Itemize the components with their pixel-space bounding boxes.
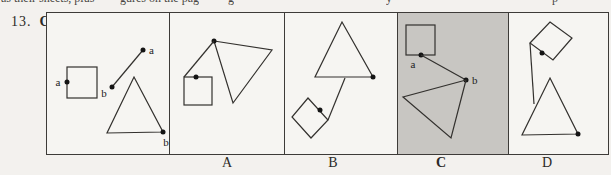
- cropped-text-fragment-3: y: [386, 0, 392, 6]
- option-letter-B: B: [328, 155, 337, 171]
- option-letter-D: D: [542, 155, 552, 171]
- panel-C: [398, 13, 509, 154]
- panel-example: [47, 13, 170, 154]
- cropped-text-fragment-1: gures on the pag: [120, 0, 199, 6]
- option-letter-C: C: [436, 155, 446, 171]
- cropped-text-fragment-0: as their sheets, plus: [1, 0, 94, 6]
- question-label: 13. C: [11, 14, 50, 30]
- cropped-text-fragment-4: p: [552, 0, 558, 6]
- answer-board: [46, 12, 609, 155]
- panel-D: [509, 13, 608, 154]
- cropped-text-line: as their sheets, plusgures on the paggyp: [0, 0, 611, 7]
- panel-A: [170, 13, 285, 154]
- cropped-text-fragment-2: g: [228, 0, 234, 6]
- question-number: 13.: [11, 14, 32, 30]
- panel-B: [285, 13, 398, 154]
- option-letter-A: A: [222, 155, 232, 171]
